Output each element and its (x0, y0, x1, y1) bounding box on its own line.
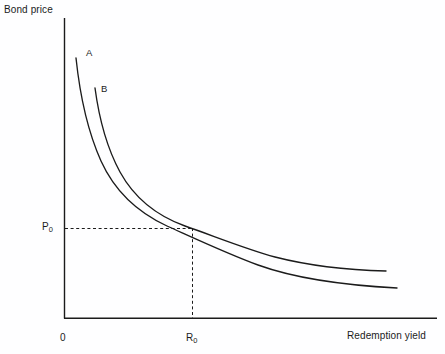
curve-b-label: B (101, 83, 107, 94)
x-axis-label: Redemption yield (347, 330, 426, 341)
p0-tick-label-subscript: 0 (49, 225, 53, 234)
chart-canvas (0, 0, 445, 354)
curve-b-path (95, 88, 386, 271)
y-axis-label: Bond price (4, 4, 53, 15)
p0-tick-label-base: P (42, 221, 49, 232)
r0-tick-label: R0 (186, 332, 197, 343)
curve-a-path (76, 58, 397, 288)
curve-a-label: A (86, 47, 92, 58)
bond-price-yield-chart: Bond price Redemption yield 0 R0 P0 A B (0, 0, 445, 354)
r0-tick-label-subscript: 0 (193, 336, 197, 345)
p0-tick-label: P0 (42, 221, 53, 232)
origin-tick-label: 0 (60, 332, 66, 343)
